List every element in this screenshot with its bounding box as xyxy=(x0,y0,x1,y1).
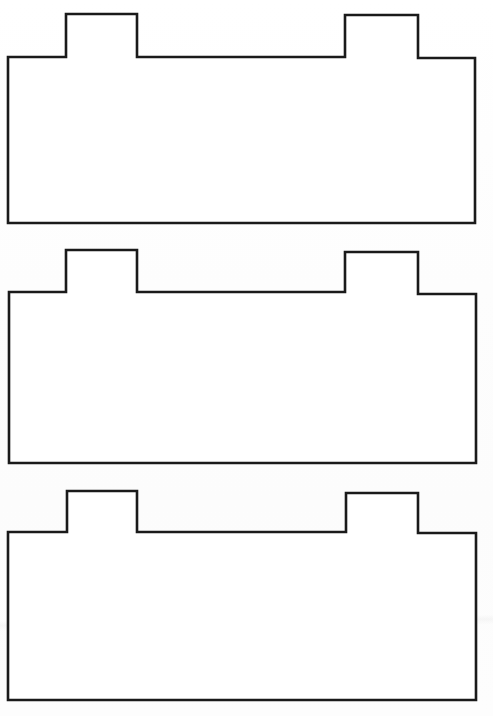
shape-layer xyxy=(0,0,493,716)
shape-outline-svg-bottom xyxy=(0,0,493,716)
outlined-tabbed-rectangle-bottom[interactable] xyxy=(8,491,476,700)
worksheet-page xyxy=(0,0,493,716)
